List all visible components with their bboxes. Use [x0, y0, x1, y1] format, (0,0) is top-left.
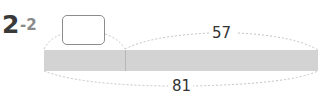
known-part-brace-left — [125, 33, 210, 49]
total-brace-right — [192, 71, 318, 86]
total-brace-left — [44, 71, 168, 86]
tape-bar — [44, 50, 318, 71]
known-part-value: 57 — [210, 26, 233, 41]
unknown-part-brace-right — [105, 34, 125, 49]
tape-bar-divider — [125, 50, 126, 71]
unknown-part-brace-left — [44, 34, 62, 49]
answer-input-box[interactable] — [62, 15, 105, 45]
known-part-brace-right — [238, 33, 318, 50]
total-value: 81 — [170, 79, 193, 94]
